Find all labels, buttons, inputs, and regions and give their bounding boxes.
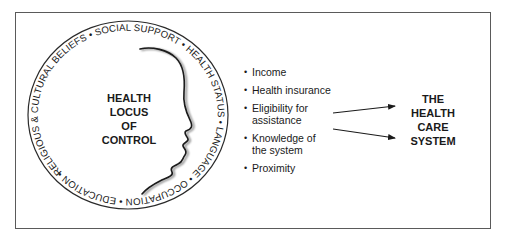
- center-label-line: LOCUS: [84, 105, 174, 119]
- system-label-line: CARE: [400, 120, 466, 134]
- system-label-line: SYSTEM: [400, 134, 466, 148]
- factor-item-knowledge: • Knowledge of the system: [243, 132, 331, 156]
- bullet-icon: •: [244, 84, 247, 96]
- system-label-line: THE: [400, 92, 466, 106]
- factors-list: • Income • Health insurance • Eligibilit…: [243, 66, 331, 180]
- system-label-line: HEALTH: [400, 106, 466, 120]
- factor-text: Health insurance: [252, 84, 331, 96]
- factor-item-health-insurance: • Health insurance: [243, 84, 331, 96]
- bullet-icon: •: [244, 102, 247, 114]
- factor-item-proximity: • Proximity: [243, 162, 331, 174]
- arrow-upper: [333, 106, 395, 113]
- factor-text: the system: [252, 144, 331, 156]
- factor-text: Proximity: [252, 162, 331, 174]
- bullet-icon: •: [244, 132, 247, 144]
- arrow-lower: [333, 129, 395, 138]
- factor-text: Knowledge of: [252, 132, 331, 144]
- health-care-system-label: THE HEALTH CARE SYSTEM: [400, 92, 466, 148]
- factor-item-income: • Income: [243, 66, 331, 78]
- center-label-line: CONTROL: [84, 133, 174, 147]
- factor-text: assistance: [252, 114, 331, 126]
- factor-text: Income: [252, 66, 331, 78]
- bullet-icon: •: [244, 66, 247, 78]
- factor-text: Eligibility for: [252, 102, 331, 114]
- center-label-line: HEALTH: [84, 91, 174, 105]
- health-locus-of-control-label: HEALTH LOCUS OF CONTROL: [84, 91, 174, 147]
- center-label-line: OF: [84, 119, 174, 133]
- bullet-icon: •: [244, 162, 247, 174]
- factor-item-eligibility: • Eligibility for assistance: [243, 102, 331, 126]
